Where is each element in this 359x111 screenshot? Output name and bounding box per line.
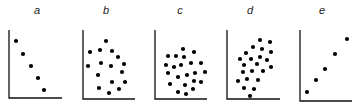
data-point (269, 50, 273, 54)
panel-label: a (34, 4, 40, 16)
data-point (42, 88, 46, 92)
data-point (260, 47, 264, 51)
scatter-panel-d: d (227, 4, 280, 99)
data-point (256, 78, 260, 82)
data-point (265, 58, 269, 62)
data-point (269, 65, 273, 69)
data-point (174, 54, 178, 58)
data-point (192, 79, 196, 83)
data-point (241, 70, 245, 74)
data-point (261, 69, 265, 73)
panel-label: b (103, 4, 109, 16)
data-point (242, 86, 246, 90)
data-point (249, 57, 253, 61)
data-point (192, 50, 196, 54)
data-point (176, 90, 180, 94)
data-point (117, 87, 121, 91)
data-point (166, 71, 170, 75)
data-point (172, 65, 176, 69)
data-point (238, 57, 242, 61)
data-point (96, 73, 100, 77)
scatter-panel-a: a (9, 4, 62, 98)
data-point (36, 76, 40, 80)
panel-label: e (319, 4, 325, 16)
data-point (164, 63, 168, 67)
data-point (109, 64, 113, 68)
data-point (268, 40, 272, 44)
data-point (122, 62, 126, 66)
data-point (199, 61, 203, 65)
data-point (166, 54, 170, 58)
data-point (323, 67, 327, 71)
data-point (107, 91, 111, 95)
data-point (245, 77, 249, 81)
data-point (248, 94, 252, 98)
panel-label: c (177, 4, 183, 16)
data-point (21, 52, 25, 56)
data-point (176, 75, 180, 79)
data-point (314, 78, 318, 82)
data-point (104, 39, 108, 43)
data-point (168, 82, 172, 86)
data-point (345, 37, 349, 41)
data-point (110, 80, 114, 84)
data-point (179, 63, 183, 67)
data-point (203, 70, 207, 74)
data-point (258, 38, 262, 42)
data-point (189, 61, 193, 65)
data-point (242, 63, 246, 67)
data-point (86, 64, 90, 68)
panel-label: d (247, 4, 254, 16)
data-point (252, 87, 256, 91)
data-point (97, 86, 101, 90)
data-point (120, 70, 124, 74)
data-point (185, 73, 189, 77)
data-point (29, 64, 33, 68)
scatter-panel-e: e (300, 4, 352, 101)
data-point (116, 55, 120, 59)
data-point (255, 62, 259, 66)
data-point (182, 55, 186, 59)
data-point (184, 92, 188, 96)
scatter-panels: abcde (0, 0, 359, 111)
data-point (88, 50, 92, 54)
scatter-panel-b: b (83, 4, 135, 99)
data-point (236, 79, 240, 83)
data-point (191, 87, 195, 91)
data-point (123, 80, 127, 84)
data-point (181, 47, 185, 51)
data-point (99, 61, 103, 65)
data-point (110, 49, 114, 53)
data-point (199, 80, 203, 84)
data-point (333, 52, 337, 56)
scatter-panel-c: c (155, 4, 207, 99)
data-point (258, 55, 262, 59)
data-point (250, 69, 254, 73)
data-point (193, 71, 197, 75)
data-point (14, 39, 18, 43)
data-point (244, 51, 248, 55)
axes (83, 30, 135, 99)
data-point (98, 48, 102, 52)
data-point (305, 90, 309, 94)
data-point (251, 45, 255, 49)
data-point (183, 83, 187, 87)
